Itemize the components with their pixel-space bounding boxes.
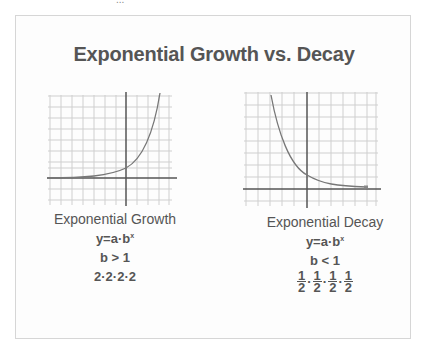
fraction: 12 <box>313 270 322 293</box>
growth-condition: b > 1 <box>40 250 190 265</box>
growth-label: Exponential Growth <box>40 211 190 227</box>
decay-condition: b < 1 <box>250 253 400 268</box>
growth-formula: y=a·bx <box>40 231 190 246</box>
decay-example: 12·12·12·12 <box>250 270 400 293</box>
growth-caption: Exponential Growth y=a·bx b > 1 2·2·2·2 <box>40 211 190 284</box>
formula-exponent: x <box>340 235 344 242</box>
decay-label: Exponential Decay <box>250 214 400 230</box>
page-title: Exponential Growth vs. Decay <box>0 43 428 66</box>
curve-end-marker <box>364 186 368 189</box>
decay-formula: y=a·bx <box>250 234 400 249</box>
formula-base: y=a·b <box>96 231 130 246</box>
decay-caption: Exponential Decay y=a·bx b < 1 12·12·12·… <box>250 214 400 293</box>
formula-exponent: x <box>130 232 134 239</box>
growth-curve <box>47 93 160 178</box>
growth-example: 2·2·2·2 <box>40 269 190 284</box>
cropped-text-fragment: ... <box>116 0 124 5</box>
growth-graph <box>44 88 180 208</box>
fraction: 12 <box>344 270 353 293</box>
decay-graph <box>242 88 382 210</box>
formula-base: y=a·b <box>306 234 340 249</box>
grid <box>48 95 172 205</box>
fraction: 12 <box>297 270 306 293</box>
